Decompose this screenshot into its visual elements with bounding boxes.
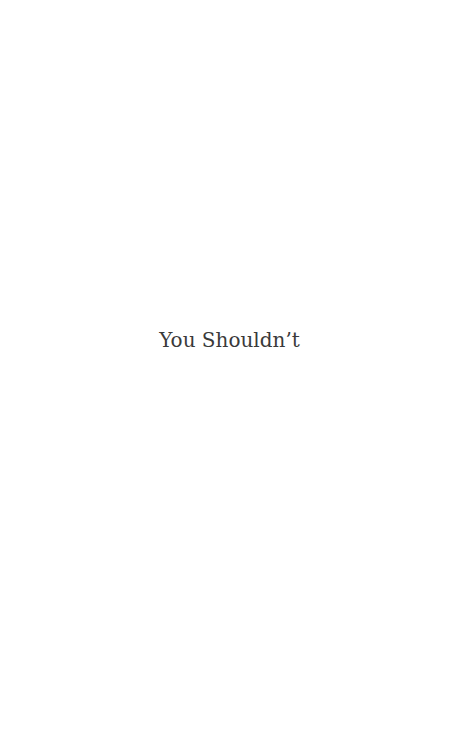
page: You Shouldn’t xyxy=(0,0,459,740)
page-title: You Shouldn’t xyxy=(0,326,459,354)
